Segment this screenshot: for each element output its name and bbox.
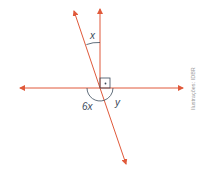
image-credit: Ilustrações: IDBR	[190, 67, 196, 110]
arc-x	[86, 42, 100, 44]
label-x: x	[89, 30, 96, 41]
label-y: y	[114, 97, 121, 108]
angle-diagram: x 6x y Ilustrações: IDBR	[0, 0, 210, 172]
oblique-line-down	[100, 88, 126, 164]
label-6x: 6x	[82, 101, 94, 112]
arc-y	[104, 88, 113, 100]
right-angle-dot	[105, 83, 107, 85]
oblique-line-up	[74, 11, 100, 88]
arc-6x	[87, 88, 104, 101]
